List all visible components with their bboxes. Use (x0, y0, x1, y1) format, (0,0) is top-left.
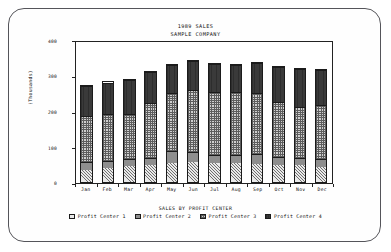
bar-segment-pc3 (252, 93, 262, 155)
legend-label-pc3: Profit Center 3 (209, 213, 257, 219)
plot-area (75, 41, 333, 184)
y-tick-label-300: 300 (35, 74, 57, 79)
stacked-bar[interactable] (315, 69, 327, 183)
bar-segment-pc2 (124, 159, 134, 167)
stacked-bar[interactable] (80, 85, 92, 183)
legend-item-pc3[interactable]: Profit Center 3 (200, 213, 256, 219)
x-axis-label-aug: Aug (226, 187, 248, 192)
bar-cell (183, 42, 204, 183)
x-axis-labels: JanFebMarAprMayJunJulAugSepOctNovDec (75, 187, 333, 192)
bar-segment-pc1 (273, 165, 283, 182)
bar-segment-pc1 (295, 165, 305, 182)
bar-cell (119, 42, 140, 183)
stacked-bar[interactable] (187, 60, 199, 183)
stacked-bar[interactable] (102, 81, 114, 183)
legend-title: SALES BY PROFIT CENTER (0, 205, 391, 211)
bar-segment-pc1 (231, 163, 241, 182)
x-axis-label-jul: Jul (204, 187, 226, 192)
bar-segment-pc2 (81, 162, 91, 170)
bar-segment-pc2 (188, 152, 198, 162)
bar-segment-pc4 (252, 63, 262, 92)
bar-segment-pc2 (252, 154, 262, 164)
x-axis-label-apr: Apr (140, 187, 162, 192)
bar-segment-pc3 (209, 92, 219, 155)
bar-segment-pc2 (167, 151, 177, 163)
legend-item-pc1[interactable]: Profit Center 1 (69, 213, 125, 219)
y-tick-label-200: 200 (35, 110, 57, 115)
bar-cell (311, 42, 332, 183)
bar-cell (268, 42, 289, 183)
bar-segment-pc1 (145, 165, 155, 182)
y-tick-label-400: 400 (35, 39, 57, 44)
x-axis-label-jun: Jun (183, 187, 205, 192)
bar-group (76, 42, 332, 183)
bar-segment-pc2 (273, 157, 283, 165)
bar-segment-pc3 (273, 102, 283, 157)
legend-label-pc4: Profit Center 4 (274, 213, 322, 219)
bar-segment-pc3 (124, 114, 134, 159)
bar-segment-pc3 (231, 92, 241, 155)
bar-segment-pc4 (188, 61, 198, 89)
bar-segment-pc3 (188, 90, 198, 152)
x-axis-label-jan: Jan (75, 187, 97, 192)
stacked-bar[interactable] (208, 63, 220, 183)
x-axis-label-dec: Dec (312, 187, 334, 192)
bar-segment-pc2 (145, 158, 155, 166)
bar-cell (161, 42, 182, 183)
legend: Profit Center 1Profit Center 2Profit Cen… (0, 213, 391, 219)
stacked-bar[interactable] (251, 62, 263, 183)
bar-segment-pc2 (103, 161, 113, 168)
stacked-bar[interactable] (230, 64, 242, 183)
x-tick-mark (333, 184, 334, 187)
bar-cell (97, 42, 118, 183)
x-axis-label-mar: Mar (118, 187, 140, 192)
x-axis-label-may: May (161, 187, 183, 192)
bar-segment-pc1 (167, 163, 177, 182)
bar-segment-pc4 (81, 86, 91, 116)
legend-swatch-pc4 (265, 214, 271, 219)
legend-swatch-pc2 (135, 214, 141, 219)
legend-item-pc2[interactable]: Profit Center 2 (135, 213, 191, 219)
stacked-bar[interactable] (294, 68, 306, 183)
bar-segment-pc4 (124, 80, 134, 113)
bar-segment-pc3 (103, 114, 113, 161)
bar-cell (140, 42, 161, 183)
bar-segment-pc3 (81, 116, 91, 162)
bar-segment-pc4 (295, 69, 305, 106)
x-axis-label-feb: Feb (97, 187, 119, 192)
bar-cell (247, 42, 268, 183)
bar-segment-pc4 (167, 65, 177, 93)
bar-segment-pc1 (316, 167, 326, 182)
bar-segment-pc1 (103, 168, 113, 183)
chart-screenshot: 1989 SALES SAMPLE COMPANY (Thousands) 40… (0, 0, 391, 252)
bar-segment-pc3 (145, 103, 155, 158)
x-axis-label-nov: Nov (290, 187, 312, 192)
bar-segment-pc1 (81, 170, 91, 182)
stacked-bar[interactable] (166, 64, 178, 183)
bar-segment-pc4 (209, 64, 219, 92)
bar-segment-pc1 (188, 162, 198, 182)
chart-title-block: 1989 SALES SAMPLE COMPANY (0, 23, 391, 38)
legend-swatch-pc3 (200, 214, 206, 219)
bar-segment-pc2 (316, 159, 326, 167)
bar-segment-pc3 (167, 93, 177, 151)
x-axis-label-sep: Sep (247, 187, 269, 192)
y-axis-label: (Thousands) (28, 48, 33, 128)
y-tick-label-0: 0 (35, 181, 57, 186)
bar-segment-pc2 (295, 158, 305, 166)
bar-segment-pc2 (209, 155, 219, 163)
x-axis-label-oct: Oct (269, 187, 291, 192)
chart-subtitle: SAMPLE COMPANY (0, 31, 391, 39)
stacked-bar[interactable] (272, 66, 284, 183)
bar-segment-pc4 (231, 65, 241, 93)
legend-label-pc2: Profit Center 2 (143, 213, 191, 219)
stacked-bar[interactable] (123, 79, 135, 183)
legend-item-pc4[interactable]: Profit Center 4 (265, 213, 321, 219)
legend-label-pc1: Profit Center 1 (78, 213, 126, 219)
bar-segment-pc4 (103, 83, 113, 114)
y-tick-label-100: 100 (35, 146, 57, 151)
bar-segment-pc1 (252, 164, 262, 182)
stacked-bar[interactable] (144, 71, 156, 183)
bar-cell (76, 42, 97, 183)
bar-segment-pc1 (209, 163, 219, 182)
